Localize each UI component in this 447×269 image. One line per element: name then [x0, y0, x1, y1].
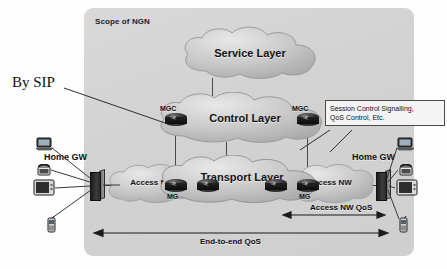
by-sip-annotation: By SIP — [12, 74, 55, 91]
router-mg-right[interactable]: ≈≷ — [297, 179, 319, 192]
label-mgc-right: MGC — [292, 105, 308, 112]
label-access-nw-qos: Access NW QoS — [310, 203, 372, 212]
device-left-television[interactable] — [33, 179, 55, 196]
router-arrows-icon: ≈≷ — [170, 181, 182, 187]
callout-line-1: Session Control Signalling, — [330, 104, 440, 113]
router-core-left[interactable]: ≈≷ — [197, 179, 219, 192]
router-arrows-icon: ≈≷ — [302, 115, 314, 121]
router-arrows-icon: ≈≷ — [170, 115, 182, 121]
router-mgc-left[interactable]: ≈≷ — [165, 113, 187, 126]
device-right-telephone[interactable] — [399, 164, 413, 176]
scope-of-ngn-label: Scope of NGN — [95, 17, 150, 26]
callout-line-2: QoS Control, Etc. — [330, 113, 440, 122]
home-gateway-left-label: Home GW — [44, 152, 87, 162]
label-mg-right: MG — [299, 193, 310, 200]
diagram-canvas: Scope of NGN Service Layer Control Laye — [0, 0, 447, 269]
router-mg-left[interactable]: ≈≷ — [165, 179, 187, 192]
home-gateway-right[interactable] — [376, 172, 389, 199]
router-mgc-right[interactable]: ≈≷ — [297, 113, 319, 126]
cloud-service-layer: Service Layer — [176, 26, 324, 80]
router-arrows-icon: ≈≷ — [270, 181, 282, 187]
label-mg-left: MG — [167, 193, 178, 200]
home-gateway-left[interactable] — [90, 172, 103, 199]
device-right-mobile-phone[interactable] — [398, 216, 409, 233]
router-arrows-icon: ≈≷ — [302, 181, 314, 187]
device-left-laptop[interactable] — [36, 137, 54, 151]
label-mgc-left: MGC — [160, 105, 176, 112]
cloud-service-layer-label: Service Layer — [214, 47, 286, 59]
cloud-control-layer-label: Control Layer — [209, 112, 281, 124]
home-gateway-right-label: Home GW — [352, 152, 395, 162]
device-right-laptop[interactable] — [397, 137, 415, 151]
device-right-television[interactable] — [396, 179, 418, 196]
router-arrows-icon: ≈≷ — [202, 181, 214, 187]
device-left-telephone[interactable] — [37, 164, 51, 176]
router-core-right[interactable]: ≈≷ — [265, 179, 287, 192]
device-left-mobile-phone[interactable] — [46, 216, 57, 233]
callout-session-control: Session Control Signalling, QoS Control,… — [325, 100, 445, 126]
label-end-to-end-qos: End-to-end QoS — [200, 237, 261, 246]
